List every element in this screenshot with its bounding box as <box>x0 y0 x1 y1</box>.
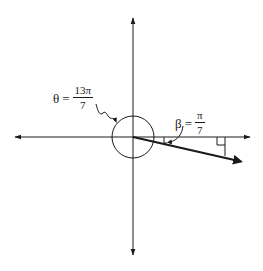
beta-equals: = <box>185 117 192 130</box>
beta-numerator: π <box>195 110 205 123</box>
theta-pointer-arrow <box>96 104 115 121</box>
theta-numerator: 13π <box>73 85 94 98</box>
theta-symbol: θ <box>53 92 59 105</box>
beta-label: β = π 7 <box>175 110 205 136</box>
theta-fraction: 13π 7 <box>73 85 94 111</box>
beta-pointer-arrowhead <box>167 140 172 145</box>
angle-diagram <box>0 0 263 271</box>
theta-equals: = <box>62 92 69 105</box>
theta-denominator: 7 <box>80 98 86 111</box>
theta-label: θ = 13π 7 <box>53 85 93 111</box>
right-angle-mark <box>217 137 225 145</box>
beta-denominator: 7 <box>197 123 203 136</box>
beta-fraction: π 7 <box>195 110 205 136</box>
beta-symbol: β <box>175 117 182 130</box>
reference-angle-mark <box>164 137 167 143</box>
